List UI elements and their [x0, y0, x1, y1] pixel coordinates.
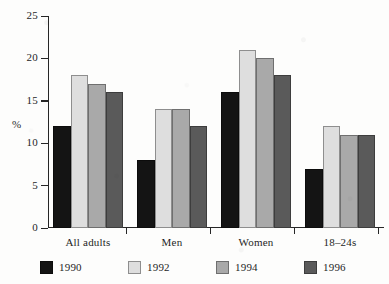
bar-1990-18–24s	[305, 169, 323, 228]
x-axis-tick	[126, 228, 127, 234]
legend-swatch-1994	[216, 261, 229, 274]
legend-entry-1994: 1994	[216, 259, 258, 275]
category-label-all-adults: All adults	[43, 236, 133, 248]
y-axis-tick-label: 5	[4, 180, 38, 191]
bar-1990-all-adults	[53, 126, 71, 228]
legend-entry-1992: 1992	[128, 259, 170, 275]
y-axis-tick-label: 15	[4, 95, 38, 106]
bar-1994-women	[256, 58, 274, 228]
bar-1996-men	[190, 126, 208, 228]
y-axis-tick	[41, 16, 48, 17]
legend-swatch-1996	[304, 261, 317, 274]
y-axis-tick-label: 10	[4, 137, 38, 148]
x-axis-tick	[210, 228, 211, 234]
category-label-men: Men	[127, 236, 217, 248]
y-axis-tick-label: 20	[4, 52, 38, 63]
y-axis-tick	[41, 185, 48, 186]
y-axis-tick	[41, 58, 48, 59]
bar-1994-18–24s	[340, 135, 358, 228]
y-axis-tick	[41, 100, 48, 101]
category-label-women: Women	[211, 236, 301, 248]
bar-1996-women	[274, 75, 292, 228]
legend-swatch-1992	[128, 261, 141, 274]
bar-1990-men	[137, 160, 155, 228]
legend-swatch-1990	[40, 261, 53, 274]
bar-1996-18–24s	[358, 135, 376, 228]
x-axis-tick	[378, 228, 379, 234]
plot-area	[48, 16, 384, 228]
x-axis-tick	[294, 228, 295, 234]
bar-1994-all-adults	[88, 84, 106, 228]
bar-1992-men	[155, 109, 173, 228]
y-axis-tick	[41, 143, 48, 144]
y-axis-tick	[41, 228, 48, 229]
bar-1992-women	[239, 50, 257, 228]
category-label-18–24s: 18–24s	[295, 236, 385, 248]
bar-1990-women	[221, 92, 239, 228]
y-axis-tick-label: 25	[4, 10, 38, 21]
legend-label-1996: 1996	[323, 261, 346, 273]
legend-entry-1996: 1996	[304, 259, 346, 275]
bar-1992-all-adults	[71, 75, 89, 228]
bar-chart: % 0510152025 All adultsMenWomen18–24s 19…	[0, 0, 389, 284]
y-axis-title: %	[12, 118, 21, 130]
legend-label-1990: 1990	[59, 261, 82, 273]
legend-entry-1990: 1990	[40, 259, 82, 275]
bar-1996-all-adults	[106, 92, 124, 228]
bar-1994-men	[172, 109, 190, 228]
legend-label-1994: 1994	[235, 261, 258, 273]
legend-label-1992: 1992	[147, 261, 170, 273]
chart-legend: 1990199219941996	[40, 259, 360, 277]
bar-1992-18–24s	[323, 126, 341, 228]
y-axis-tick-label: 0	[4, 222, 38, 233]
